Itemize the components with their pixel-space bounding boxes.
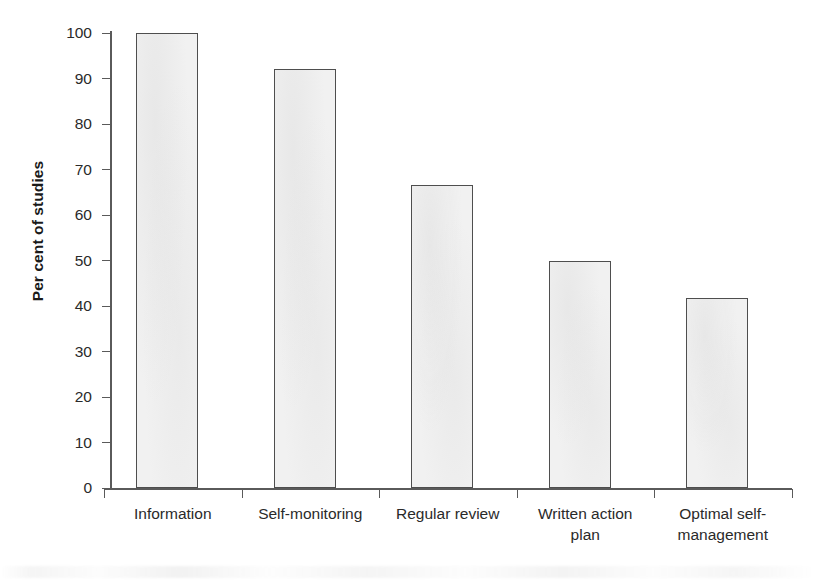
bar-information	[136, 33, 198, 488]
y-tick-mark	[102, 397, 111, 398]
x-tick-mark	[792, 489, 793, 498]
x-label-line: Regular review	[396, 505, 499, 522]
y-tick-label: 70	[46, 161, 92, 179]
y-tick-label: 30	[46, 343, 92, 361]
y-tick-mark	[102, 33, 111, 34]
x-tick-mark	[104, 489, 105, 498]
x-label-line: plan	[515, 524, 655, 545]
y-tick-label: 100	[46, 24, 92, 42]
y-tick-label: 50	[46, 252, 92, 270]
y-tick-mark	[102, 306, 111, 307]
bar-chart: Per cent of studies 100 90 80 70 60 50 4…	[0, 0, 816, 580]
y-tick-label: 40	[46, 297, 92, 315]
y-tick-label: 20	[46, 388, 92, 406]
x-tick-mark	[517, 489, 518, 498]
x-tick-mark	[654, 489, 655, 498]
x-tick-mark	[379, 489, 380, 498]
bar-self-monitoring	[274, 69, 336, 488]
y-tick-label: 0	[46, 479, 92, 497]
bar-regular-review	[411, 185, 473, 489]
x-label-line: Written action	[538, 505, 632, 522]
y-tick-label: 90	[46, 70, 92, 88]
x-axis-label-self-monitoring: Self-monitoring	[240, 503, 380, 524]
bar-optimal-self-management	[686, 298, 748, 488]
x-label-line: management	[653, 524, 793, 545]
x-axis-label-written-action-plan: Written action plan	[515, 503, 655, 545]
x-tick-mark	[242, 489, 243, 498]
y-tick-mark	[102, 260, 111, 261]
y-tick-mark	[102, 78, 111, 79]
x-axis-label-regular-review: Regular review	[378, 503, 518, 524]
y-axis-title: Per cent of studies	[29, 131, 47, 331]
y-tick-mark	[102, 215, 111, 216]
y-tick-mark	[102, 442, 111, 443]
x-axis-line	[104, 488, 792, 490]
bar-written-action-plan	[549, 261, 611, 488]
y-tick-mark	[102, 169, 111, 170]
y-tick-label: 60	[46, 206, 92, 224]
y-tick-label: 10	[46, 434, 92, 452]
x-label-line: Information	[134, 505, 212, 522]
y-tick-mark	[102, 124, 111, 125]
y-tick-label: 80	[46, 115, 92, 133]
chart-page: Per cent of studies 100 90 80 70 60 50 4…	[0, 0, 816, 580]
y-tick-mark	[102, 351, 111, 352]
x-axis-label-information: Information	[103, 503, 243, 524]
x-axis-label-optimal-self-management: Optimal self- management	[653, 503, 793, 545]
x-label-line: Self-monitoring	[258, 505, 362, 522]
scan-artifact-line	[0, 566, 816, 578]
x-label-line: Optimal self-	[679, 505, 766, 522]
